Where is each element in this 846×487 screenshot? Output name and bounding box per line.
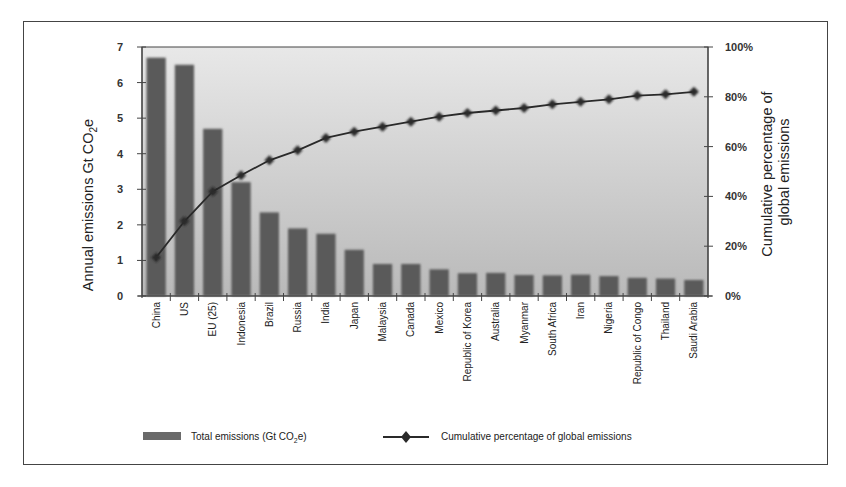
category-label: Russia	[292, 302, 303, 333]
pareto-chart: 01234567 0%20%40%60%80%100% ChinaUSEU (2…	[0, 0, 846, 487]
category-axis-labels: ChinaUSEU (25)IndonesiaBrazilRussiaIndia…	[151, 293, 700, 384]
legend: Total emissions (Gt CO2e) Cumulative per…	[143, 431, 632, 444]
bar	[458, 273, 477, 296]
bar	[231, 182, 250, 296]
category-label: EU (25)	[207, 302, 218, 336]
category-label: Malaysia	[377, 302, 388, 342]
bar	[514, 275, 533, 296]
y-tick-label: 0	[117, 290, 123, 302]
category-label: Canada	[405, 302, 416, 337]
bar	[288, 228, 307, 296]
bar	[599, 276, 618, 296]
y2-tick-label: 0%	[725, 290, 741, 302]
bar	[543, 275, 562, 296]
bar	[203, 129, 222, 296]
plot-area	[142, 47, 708, 296]
category-label: Australia	[490, 302, 501, 341]
y2-tick-label: 20%	[725, 240, 747, 252]
y2-tick-label: 80%	[725, 91, 747, 103]
y-tick-label: 1	[117, 254, 123, 266]
category-label: Republic of Congo	[632, 302, 643, 385]
y-tick-label: 4	[117, 148, 124, 160]
legend-bar-swatch	[143, 432, 181, 440]
y-tick-label: 7	[117, 41, 123, 53]
right-axis-title: Cumulative percentage of global emission…	[759, 87, 792, 256]
right-axis-ticks: 0%20%40%60%80%100%	[704, 41, 753, 302]
category-label: Japan	[349, 302, 360, 329]
category-label: Republic of Korea	[462, 302, 473, 382]
bar	[571, 275, 590, 296]
diamond-marker-icon	[401, 431, 411, 443]
category-label: South Africa	[547, 302, 558, 356]
bar	[345, 250, 364, 296]
category-label: Myanmar	[519, 301, 530, 343]
category-label: Thailand	[660, 302, 671, 340]
category-label: India	[320, 302, 331, 324]
category-label: Saudi Arabia	[688, 302, 699, 359]
bar	[175, 65, 194, 296]
y-tick-label: 3	[117, 183, 123, 195]
category-label: Mexico	[434, 302, 445, 334]
bar	[260, 212, 279, 296]
category-label: Nigeria	[603, 302, 614, 334]
y2-tick-label: 60%	[725, 141, 747, 153]
bar	[628, 278, 647, 296]
category-label: China	[151, 302, 162, 329]
bar	[486, 273, 505, 296]
left-axis-title: Annual emissions Gt CO2e	[80, 119, 99, 291]
bar	[656, 279, 675, 296]
y-tick-label: 2	[117, 219, 123, 231]
category-label: US	[179, 302, 190, 316]
bar	[373, 264, 392, 296]
y2-tick-label: 40%	[725, 190, 747, 202]
y2-tick-label: 100%	[725, 41, 753, 53]
bar	[430, 269, 449, 296]
legend-line-label: Cumulative percentage of global emission…	[441, 431, 632, 442]
y-tick-label: 5	[117, 112, 123, 124]
category-label: Brazil	[264, 302, 275, 327]
bar	[401, 264, 420, 296]
category-label: Indonesia	[236, 302, 247, 346]
legend-bar-label: Total emissions (Gt CO2e)	[191, 431, 307, 444]
category-label: Iran	[575, 302, 586, 319]
bar	[316, 234, 335, 296]
y-tick-label: 6	[117, 77, 123, 89]
bar	[684, 280, 703, 296]
